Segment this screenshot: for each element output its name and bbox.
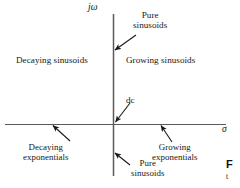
pure-sinusoids-top-label: Pure sinusoids (133, 11, 167, 31)
decaying-exponentials-label: Decaying exponentials (23, 143, 68, 162)
splane-figure: jω σ Pure sinusoids Decaying sinusoids G… (0, 0, 240, 188)
arrow-growing-exponentials (161, 126, 172, 143)
arrow-pure-sinusoids-bottom (115, 153, 130, 165)
arrow-pure-sinusoids-top (115, 35, 136, 50)
real-axis-label: σ (222, 124, 227, 134)
arrow-decaying-exponentials (53, 126, 70, 142)
decaying-sinusoids-label: Decaying sinusoids (16, 56, 88, 66)
growing-sinusoids-label: Growing sinusoids (126, 56, 195, 66)
dc-label: dc (126, 96, 135, 106)
figure-caption-letter: F (226, 158, 233, 170)
decaying-exponentials-line2: exponentials (23, 153, 68, 163)
imaginary-axis-label: jω (88, 2, 98, 12)
figure-caption-second-line: t (226, 172, 233, 181)
pure-sinusoids-bottom-line2: sinusoids (131, 169, 165, 179)
figure-caption-stub: F t (226, 158, 233, 181)
pure-sinusoids-bottom-label: Pure sinusoids (131, 159, 165, 178)
arrow-dc (116, 103, 131, 122)
pure-sinusoids-top-line2: sinusoids (133, 21, 167, 31)
